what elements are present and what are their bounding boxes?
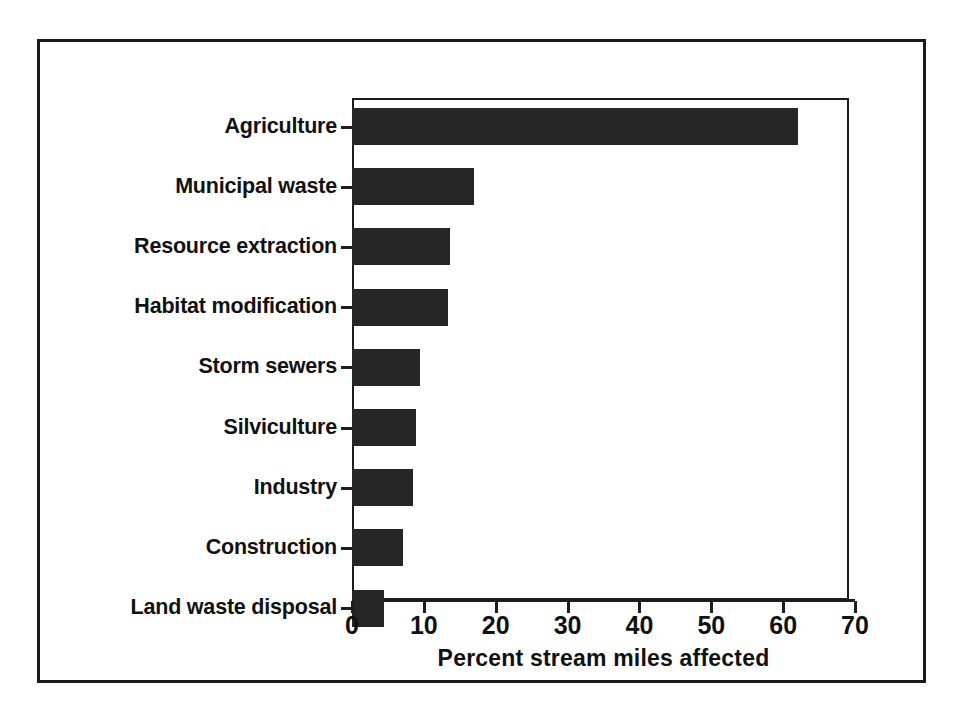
x-axis-tick-label: 70 (825, 613, 885, 638)
y-axis-tick (341, 487, 353, 490)
category-label: Industry (7, 477, 337, 499)
y-axis-tick (341, 366, 353, 369)
x-axis-tick-label: 30 (538, 613, 598, 638)
bar (352, 409, 416, 446)
category-label: Habitat modification (7, 296, 337, 318)
bar (352, 108, 798, 145)
x-axis-tick-label: 40 (609, 613, 669, 638)
bar (352, 289, 448, 326)
x-axis-tick-label: 0 (322, 613, 382, 638)
bar (352, 228, 450, 265)
x-axis-tick-label: 60 (753, 613, 813, 638)
x-axis-tick-label: 50 (681, 613, 741, 638)
x-axis-title: Percent stream miles affected (352, 646, 855, 671)
bar (352, 469, 413, 506)
x-axis-tick-label: 10 (394, 613, 454, 638)
category-label: Municipal waste (7, 176, 337, 198)
y-axis-tick (341, 547, 353, 550)
category-label: Resource extraction (7, 236, 337, 258)
bar (352, 529, 403, 566)
category-label: Agriculture (7, 116, 337, 138)
bar (352, 349, 420, 386)
y-axis-tick (341, 186, 353, 189)
y-axis-tick (341, 126, 353, 129)
category-label: Storm sewers (7, 356, 337, 378)
y-axis-tick (341, 306, 353, 309)
y-axis-tick (341, 427, 353, 430)
bar (352, 168, 474, 205)
category-label: Silviculture (7, 417, 337, 439)
category-label: Land waste disposal (7, 597, 337, 619)
bar-chart: AgricultureMunicipal wasteResource extra… (0, 0, 964, 724)
y-axis-tick (341, 246, 353, 249)
x-axis-tick-label: 20 (466, 613, 526, 638)
category-axis-labels: AgricultureMunicipal wasteResource extra… (0, 0, 337, 724)
bars-layer (352, 98, 855, 600)
category-label: Construction (7, 537, 337, 559)
